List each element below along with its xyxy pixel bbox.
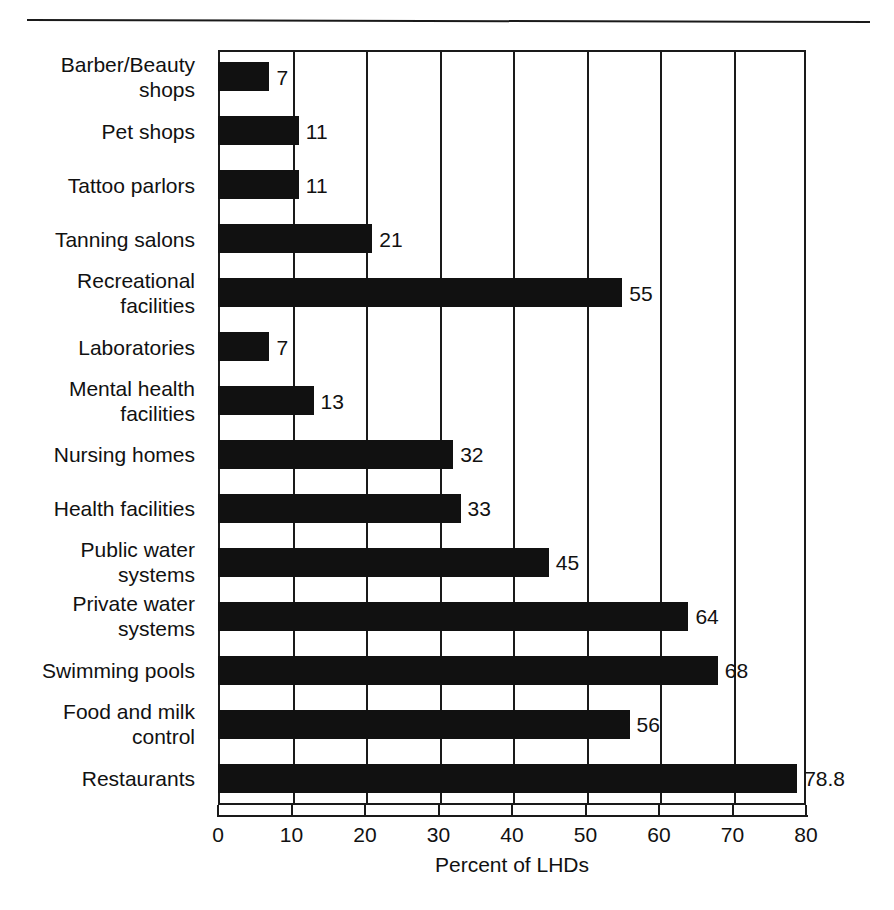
- bar: [218, 548, 549, 577]
- bar: [218, 170, 299, 199]
- x-tick-0: [217, 805, 219, 817]
- category-label-line: facilities: [0, 293, 195, 318]
- category-label-line: Swimming pools: [0, 658, 195, 683]
- bar-row: 33: [218, 494, 806, 523]
- bar: [218, 602, 688, 631]
- category-label: Food and milkcontrol: [0, 699, 195, 749]
- x-tick-label-30: 30: [427, 823, 450, 847]
- x-tick-70: [732, 805, 734, 817]
- figure-container: Barber/BeautyshopsPet shopsTattoo parlor…: [0, 0, 894, 910]
- category-label: Tanning salons: [0, 226, 195, 251]
- bar-row: 7: [218, 332, 806, 361]
- bar-row: 56: [218, 710, 806, 739]
- bar-row: 78.8: [218, 764, 806, 793]
- x-tick-20: [364, 805, 366, 817]
- x-tick-80: [805, 805, 807, 817]
- category-label-line: Private water: [0, 591, 195, 616]
- bar-row: 64: [218, 602, 806, 631]
- category-label: Health facilities: [0, 496, 195, 521]
- category-label-line: systems: [0, 616, 195, 641]
- bar: [218, 494, 461, 523]
- category-label: Private watersystems: [0, 591, 195, 641]
- bar-value-label: 33: [461, 498, 491, 519]
- x-tick-10: [291, 805, 293, 817]
- x-tick-40: [511, 805, 513, 817]
- category-label: Swimming pools: [0, 658, 195, 683]
- bar-row: 55: [218, 278, 806, 307]
- x-tick-label-50: 50: [574, 823, 597, 847]
- x-tick-label-60: 60: [647, 823, 670, 847]
- category-label: Barber/Beautyshops: [0, 52, 195, 102]
- bar-value-label: 13: [314, 390, 344, 411]
- bar-row: 11: [218, 170, 806, 199]
- bar-value-label: 78.8: [797, 768, 845, 789]
- bar: [218, 764, 797, 793]
- x-tick-50: [585, 805, 587, 817]
- category-label-line: Restaurants: [0, 766, 195, 791]
- category-label-line: Mental health: [0, 376, 195, 401]
- x-tick-label-70: 70: [721, 823, 744, 847]
- category-label: Laboratories: [0, 334, 195, 359]
- bar-series: 71111215571332334564685678.8: [218, 50, 806, 805]
- x-axis-title: Percent of LHDs: [218, 853, 806, 877]
- bar-value-label: 55: [622, 282, 652, 303]
- bar-row: 11: [218, 116, 806, 145]
- category-label-line: control: [0, 724, 195, 749]
- category-label-line: Tanning salons: [0, 226, 195, 251]
- top-horizontal-rule: [27, 19, 870, 23]
- category-label: Mental healthfacilities: [0, 376, 195, 426]
- bar-row: 7: [218, 62, 806, 91]
- category-label-line: facilities: [0, 401, 195, 426]
- x-tick-label-10: 10: [280, 823, 303, 847]
- bar: [218, 332, 269, 361]
- bar-row: 45: [218, 548, 806, 577]
- category-label-line: systems: [0, 562, 195, 587]
- bar-value-label: 64: [688, 606, 718, 627]
- category-label-line: shops: [0, 77, 195, 102]
- bar-value-label: 7: [269, 336, 288, 357]
- x-axis-line: [218, 815, 808, 817]
- x-tick-label-20: 20: [353, 823, 376, 847]
- category-label-line: Pet shops: [0, 118, 195, 143]
- category-label-line: Food and milk: [0, 699, 195, 724]
- category-label: Pet shops: [0, 118, 195, 143]
- category-label-line: Nursing homes: [0, 442, 195, 467]
- category-label-line: Laboratories: [0, 334, 195, 359]
- bar-value-label: 45: [549, 552, 579, 573]
- bar-value-label: 68: [718, 660, 748, 681]
- category-label: Recreationalfacilities: [0, 268, 195, 318]
- category-label: Public watersystems: [0, 537, 195, 587]
- category-label-line: Barber/Beauty: [0, 52, 195, 77]
- category-label-line: Tattoo parlors: [0, 172, 195, 197]
- bar: [218, 62, 269, 91]
- x-tick-label-80: 80: [794, 823, 817, 847]
- bar-value-label: 21: [372, 228, 402, 249]
- category-axis-labels: Barber/BeautyshopsPet shopsTattoo parlor…: [0, 50, 200, 805]
- x-tick-30: [438, 805, 440, 817]
- bar: [218, 224, 372, 253]
- bar-row: 13: [218, 386, 806, 415]
- bar: [218, 656, 718, 685]
- bar-value-label: 11: [299, 120, 328, 141]
- bar: [218, 278, 622, 307]
- bar: [218, 116, 299, 145]
- bar-row: 21: [218, 224, 806, 253]
- bar-row: 68: [218, 656, 806, 685]
- category-label: Tattoo parlors: [0, 172, 195, 197]
- category-label: Nursing homes: [0, 442, 195, 467]
- bar-row: 32: [218, 440, 806, 469]
- bar-value-label: 11: [299, 174, 328, 195]
- x-tick-label-40: 40: [500, 823, 523, 847]
- bar: [218, 386, 314, 415]
- bar: [218, 710, 630, 739]
- category-label-line: Recreational: [0, 268, 195, 293]
- x-tick-label-0: 0: [212, 823, 224, 847]
- bar: [218, 440, 453, 469]
- bar-value-label: 7: [269, 66, 288, 87]
- bar-value-label: 32: [453, 444, 483, 465]
- bar-value-label: 56: [630, 714, 660, 735]
- x-tick-60: [658, 805, 660, 817]
- category-label-line: Health facilities: [0, 496, 195, 521]
- category-label: Restaurants: [0, 766, 195, 791]
- category-label-line: Public water: [0, 537, 195, 562]
